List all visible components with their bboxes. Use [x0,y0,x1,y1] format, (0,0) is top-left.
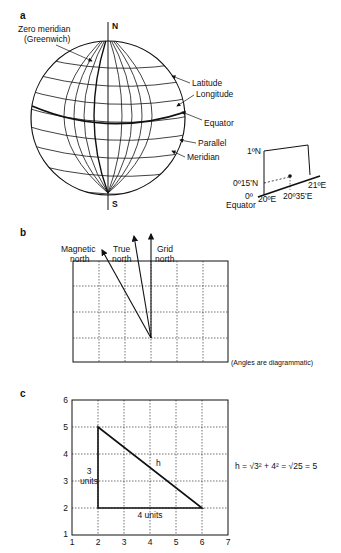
south-pole-label: S [112,199,118,209]
callout-equator: Equator [204,118,234,128]
grid-label-2: north [155,254,175,264]
svg-text:3: 3 [122,537,127,547]
figure-canvas: a N S [0,0,341,553]
magnetic-label: Magnetic [61,244,96,254]
zero-meridian-sublabel: (Greenwich) [24,34,70,44]
angles-note: (Angles are diagrammatic) [231,359,313,367]
svg-text:6: 6 [63,395,68,405]
magnetic-label-2: north [70,254,90,264]
svg-text:7: 7 [226,537,231,547]
inset-015N: 0º15'N [233,178,258,188]
svg-text:2: 2 [96,537,101,547]
panel-b-label: b [20,227,26,238]
svg-text:3: 3 [63,476,68,486]
inset-20E: 20ºE [258,194,277,204]
coordinate-inset: 1ºN 0º15'N 0º Equator 20ºE 20º35'E 21ºE [226,145,327,210]
zero-meridian-leader [56,45,92,61]
callout-parallel: Parallel [198,138,226,148]
svg-text:4: 4 [63,449,68,459]
panel-a-label: a [20,10,26,21]
inset-point [288,174,292,178]
svg-text:4: 4 [148,537,153,547]
panel-c-label: c [20,388,26,399]
vertical-side-label-2: units [80,476,98,486]
callout-longitude: Longitude [196,89,234,99]
svg-text:6: 6 [200,537,205,547]
svg-text:1: 1 [63,529,68,539]
globe [20,34,200,195]
inset-lat-dash [264,177,289,183]
svg-text:5: 5 [63,422,68,432]
globe-callouts: Latitude Longitude Equator Parallel Meri… [172,76,234,162]
panel-a: a N S [18,10,327,210]
panel-b: b Magnetic north True north Grid north [20,227,313,367]
svg-text:2: 2 [63,503,68,513]
vertical-side-label: 3 [87,466,92,476]
hypotenuse-label: h [156,458,161,468]
inset-21E: 21ºE [308,180,327,190]
panel-c: c 1 2 3 4 5 6 7 1 [20,388,317,547]
callout-latitude: Latitude [192,78,223,88]
zero-meridian-label: Zero meridian [18,24,71,34]
callout-meridian: Meridian [187,152,220,162]
inset-2035E: 20º35'E [283,191,313,201]
true-label-2: north [112,254,132,264]
y-axis-ticks: 1 2 3 4 5 6 [63,395,68,539]
svg-text:1: 1 [70,537,75,547]
north-pole-label: N [112,21,118,31]
inset-1N: 1ºN [247,146,261,156]
pythagoras-formula: h = √3² + 4² = √25 = 5 [235,461,317,471]
true-label: True [113,244,130,254]
x-axis-ticks: 1 2 3 4 5 6 7 [70,537,231,547]
grid-label: Grid [157,244,173,254]
horizontal-side-label: 4 units [137,510,162,520]
inset-equator: Equator [226,200,256,210]
svg-text:5: 5 [174,537,179,547]
